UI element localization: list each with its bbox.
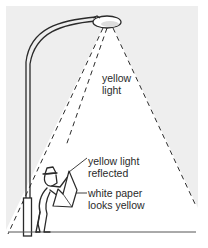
label-line: light: [102, 84, 131, 96]
label-line: reflected: [88, 167, 139, 179]
lamp-head-icon: [93, 16, 121, 28]
label-line: white paper: [88, 187, 145, 199]
label-yellow-light: yellow light: [102, 72, 131, 96]
label-line: yellow: [102, 72, 131, 84]
label-yellow-light-reflected: yellow light reflected: [88, 155, 139, 179]
pole-base: [24, 198, 32, 236]
label-white-paper-looks-yellow: white paper looks yellow: [88, 187, 145, 211]
label-line: looks yellow: [88, 199, 145, 211]
diagram-canvas: yellow light yellow light reflected whit…: [0, 0, 208, 248]
label-line: yellow light: [88, 155, 139, 167]
